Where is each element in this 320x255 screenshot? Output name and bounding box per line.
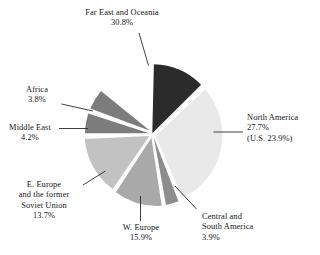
pie-label-e-europe-former-soviet-union: E. Europe and the former Soviet Union 13…: [6, 180, 82, 222]
pie-label-africa-value: 3.8%: [14, 95, 60, 105]
pie-label-w-europe: W. Europe 15.9%: [100, 223, 182, 244]
pie-label-e-europe-name-line2: and the former: [6, 190, 82, 200]
pie-label-north-america-note: (U.S. 23.9%): [247, 134, 319, 144]
pie-label-w-europe-value: 15.9%: [100, 233, 182, 243]
pie-label-central-and-south-america-value: 3.9%: [202, 233, 292, 243]
pie-label-e-europe-name-line3: Soviet Union: [6, 201, 82, 211]
leader-line-far-east-and-oceania: [139, 33, 149, 66]
pie-label-e-europe-name-line1: E. Europe: [6, 180, 82, 190]
pie-label-africa: Africa 3.8%: [14, 85, 60, 106]
pie-label-e-europe-value: 13.7%: [6, 211, 82, 221]
pie-label-far-east-and-oceania: Far East and Oceania 30.8%: [57, 8, 187, 29]
leader-line-africa: [62, 104, 94, 111]
pie-label-middle-east-name: Middle East: [2, 123, 58, 133]
pie-label-middle-east: Middle East 4.2%: [2, 123, 58, 144]
pie-label-africa-name: Africa: [14, 85, 60, 95]
pie-label-north-america-name: North America: [247, 113, 319, 123]
pie-slices: [85, 64, 223, 206]
pie-label-central-and-south-america: Central and South America 3.9%: [202, 212, 292, 243]
pie-label-far-east-and-oceania-name: Far East and Oceania: [57, 8, 187, 18]
pie-label-far-east-and-oceania-value: 30.8%: [57, 18, 187, 28]
pie-label-central-and-south-america-name-line2: South America: [202, 222, 292, 232]
pie-label-central-and-south-america-name-line1: Central and: [202, 212, 292, 222]
pie-chart: Far East and Oceania 30.8% North America…: [0, 0, 320, 255]
pie-label-middle-east-value: 4.2%: [2, 133, 58, 143]
pie-label-north-america: North America 27.7% (U.S. 23.9%): [247, 113, 319, 144]
pie-label-north-america-value: 27.7%: [247, 123, 319, 133]
pie-label-w-europe-name: W. Europe: [100, 223, 182, 233]
